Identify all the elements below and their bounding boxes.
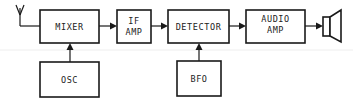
bfo-label: BFO: [190, 74, 207, 84]
audio-amp-label-line2: AMP: [267, 25, 284, 35]
arrow-mixer-to-if-amp: [99, 23, 117, 30]
receiver-block-diagram: MIXER IF AMP DETECTOR AUDIO AMP: [0, 0, 353, 108]
speaker-icon: [323, 10, 341, 42]
mixer-label: MIXER: [55, 22, 84, 32]
arrow-detector-to-audio-amp: [229, 23, 246, 30]
if-amp-label-line1: IF: [128, 16, 139, 26]
if-amp-block: IF AMP: [117, 10, 151, 43]
osc-label: OSC: [61, 75, 78, 85]
detector-block: DETECTOR: [168, 10, 229, 43]
if-amp-label-line2: AMP: [125, 27, 142, 37]
arrow-osc-to-mixer: [67, 43, 74, 62]
antenna-icon: [16, 5, 40, 26]
arrow-if-amp-to-detector: [151, 23, 168, 30]
audio-amp-block: AUDIO AMP: [246, 10, 305, 43]
detector-label: DETECTOR: [176, 22, 222, 32]
osc-block: OSC: [40, 62, 99, 97]
audio-amp-label-line1: AUDIO: [261, 14, 290, 24]
bfo-block: BFO: [177, 61, 221, 96]
mixer-block: MIXER: [40, 10, 99, 43]
arrow-bfo-to-detector: [196, 43, 203, 61]
arrow-audio-amp-to-speaker: [305, 23, 323, 30]
